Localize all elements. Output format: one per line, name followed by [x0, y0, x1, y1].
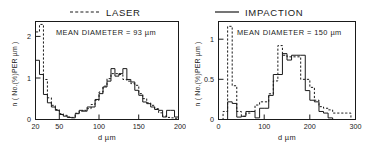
figure-container: LASER MEAN DIAMETER = 93 µm 0 1 2 20 50 …	[0, 0, 373, 154]
laser-xtick-label-4: 200	[174, 122, 186, 131]
laser-series-impaction	[36, 60, 179, 119]
laser-xtick-label-0: 20	[32, 122, 40, 131]
impaction-plot-svg: IMPACTION MEAN DIAMETER = 150 µm 0 0.5 1…	[187, 0, 373, 154]
laser-yaxis-title: n ( No.(%)PER µm )	[11, 42, 19, 107]
laser-plot-svg: LASER MEAN DIAMETER = 93 µm 0 1 2 20 50 …	[0, 0, 186, 154]
impaction-yaxis-title: n ( No.(%)PER µm )	[194, 42, 202, 107]
impaction-title: IMPACTION	[245, 7, 303, 18]
panel-laser: LASER MEAN DIAMETER = 93 µm 0 1 2 20 50 …	[0, 0, 186, 154]
impaction-ytick-label-0: 0	[210, 115, 214, 124]
laser-ytick-label-1: 1	[27, 74, 31, 83]
impaction-series-laser	[219, 26, 356, 119]
laser-xtick-label-2: 100	[93, 122, 105, 131]
laser-title: LASER	[106, 7, 141, 18]
impaction-xtick-label-2: 200	[304, 122, 316, 131]
impaction-xtick-label-3: 300	[350, 122, 362, 131]
impaction-series-impaction	[219, 54, 356, 120]
impaction-xtick-label-0: 0	[217, 122, 221, 131]
laser-ytick-label-0: 0	[27, 115, 31, 124]
impaction-ytick-label-1: 1	[210, 35, 214, 44]
laser-xtick-label-1: 50	[55, 122, 63, 131]
laser-series-laser	[36, 24, 179, 119]
laser-xaxis-title: d µm	[98, 133, 116, 142]
impaction-mean-diameter-annotation: MEAN DIAMETER = 150 µm	[237, 28, 342, 37]
impaction-ytick-label-05: 0.5	[204, 75, 214, 84]
panel-impaction: IMPACTION MEAN DIAMETER = 150 µm 0 0.5 1…	[187, 0, 373, 154]
impaction-xaxis-title: d µm	[278, 133, 296, 142]
impaction-xtick-label-1: 100	[258, 122, 270, 131]
laser-ytick-label-2: 2	[27, 32, 31, 41]
laser-xtick-label-3: 150	[133, 122, 145, 131]
laser-mean-diameter-annotation: MEAN DIAMETER = 93 µm	[56, 28, 156, 37]
